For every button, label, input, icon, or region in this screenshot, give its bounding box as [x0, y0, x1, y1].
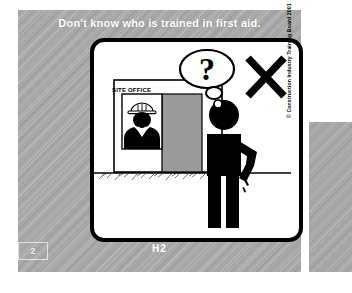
figure-leg-right — [226, 176, 239, 228]
copyright-notice: © Construction Industry Training Board 2… — [286, 8, 292, 118]
page-title: Don't know who is trained in first aid. — [18, 17, 301, 29]
illustration-canvas: ? — [94, 42, 299, 238]
office-door — [162, 94, 202, 172]
standing-worker-figure — [207, 100, 257, 228]
reference-code: H2 — [18, 243, 301, 254]
thought-bubble-medium — [206, 87, 222, 99]
site-office-sign: SITE OFFICE — [112, 87, 151, 93]
figure-leg-left — [208, 176, 221, 228]
figure-finger — [242, 187, 246, 193]
illustration-card: ? — [90, 38, 303, 242]
question-mark: ? — [199, 51, 215, 87]
figure-hand — [244, 179, 249, 186]
worker-head — [133, 112, 151, 128]
page-number: 2 — [18, 242, 48, 260]
cross-mark-x — [248, 58, 284, 96]
adjacent-page-sliver — [309, 122, 352, 272]
thought-bubble-small — [214, 100, 222, 108]
poster-page: Don't know who is trained in first aid. — [0, 0, 352, 293]
ground-hatching — [99, 174, 205, 181]
illustration-svg: ? — [94, 42, 291, 230]
